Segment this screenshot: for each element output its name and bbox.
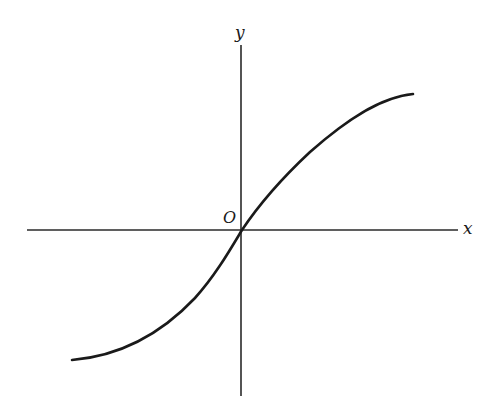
x-axis-label: x: [463, 218, 473, 238]
s-curve: [72, 94, 413, 360]
graph-figure: y x O: [0, 0, 497, 412]
origin-label: O: [223, 208, 236, 227]
y-axis-label: y: [234, 22, 245, 42]
